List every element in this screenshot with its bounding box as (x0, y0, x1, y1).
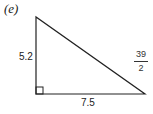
horizontal-leg-label: 7.5 (81, 98, 95, 108)
hypotenuse-label: 39 2 (133, 50, 149, 73)
hypotenuse-numerator: 39 (133, 50, 149, 59)
vertical-leg-label: 5.2 (19, 52, 33, 62)
hypotenuse-denominator: 2 (133, 64, 149, 73)
fraction-bar (134, 61, 148, 62)
right-angle-marker (36, 87, 43, 94)
